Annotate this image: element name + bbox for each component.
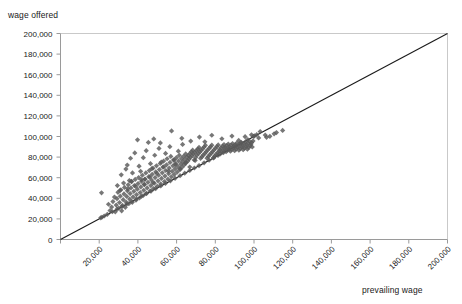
scatter-point [188,138,193,143]
scatter-point [151,136,156,141]
x-tick-label: 100,000 [233,244,260,271]
scatter-point [132,150,137,155]
x-tick-label: 140,000 [310,244,337,271]
scatter-point [128,156,133,161]
scatter-point [229,133,234,138]
y-tick-label: 160,000 [24,71,53,80]
scatter-point [148,161,153,166]
scatter-point [196,163,201,168]
scatter-point [158,140,163,145]
scatter-point [130,170,135,175]
x-tick-label: 40,000 [120,244,144,268]
scatter-point [135,137,140,142]
scatter-point [121,180,126,185]
scatter-point [110,199,115,204]
scatter-point [187,168,192,173]
scatter-point [176,149,181,154]
scatter-point [182,171,187,176]
y-tick-label: 0 [48,236,53,245]
scatter-point [123,166,128,171]
x-tick-label: 200,000 [426,244,453,271]
scatter-point [167,144,172,149]
y-tick-label: 120,000 [24,112,53,121]
y-tick-label: 80,000 [28,153,53,162]
scatter-point [192,165,197,170]
scatter-point [141,155,146,160]
scatter-point [163,151,168,156]
x-tick-label: 180,000 [387,244,414,271]
scatter-point [146,140,151,145]
x-tick-label: 80,000 [197,244,221,268]
y-tick-label: 40,000 [28,194,53,203]
x-tick-label: 160,000 [349,244,376,271]
scatter-point [156,146,161,151]
scatter-point [180,142,185,147]
scatter-point [136,164,141,169]
y-tick-label: 140,000 [24,91,53,100]
scatter-point [179,136,184,141]
scatter-points [98,128,285,221]
scatter-point [99,190,104,195]
y-tick-label: 60,000 [28,174,53,183]
scatter-point [144,148,149,153]
x-axis-ticks: 20,00040,00060,00080,000100,000120,00014… [61,240,454,272]
scatter-point [201,160,206,165]
x-tick-label: 20,000 [81,244,105,268]
scatter-point [258,129,263,134]
x-tick-label: 120,000 [271,244,298,271]
y-tick-label: 100,000 [24,133,53,142]
scatter-point [119,172,124,177]
scatter-point [125,162,130,167]
scatter-point [177,173,182,178]
y-tick-label: 20,000 [28,215,53,224]
scatter-point [219,136,224,141]
scatter-point [202,139,207,144]
scatter-point [197,135,202,140]
y-tick-label: 200,000 [24,30,53,39]
y-tick-label: 180,000 [24,50,53,59]
scatter-point [152,153,157,158]
y-axis-ticks: 020,00040,00060,00080,000100,000120,0001… [24,30,61,245]
scatter-point [209,133,214,138]
scatter-point [280,128,285,133]
scatter-point [169,128,174,133]
scatter-point [115,183,120,188]
x-tick-label: 60,000 [158,244,182,268]
scatter-chart: wage offered prevailing wage 020,00040,0… [0,0,462,304]
plot-canvas: 020,00040,00060,00080,000100,000120,0001… [0,0,462,304]
